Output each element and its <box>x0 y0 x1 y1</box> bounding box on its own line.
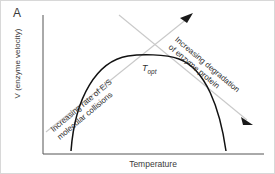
collisions-arrow-icon <box>180 13 193 23</box>
enzyme-temperature-figure: A V (enzyme velocity) Temperature Increa… <box>0 0 275 174</box>
t-opt-subscript: opt <box>148 68 157 75</box>
degradation-trend-line <box>119 15 247 120</box>
t-opt-label: Topt <box>142 63 157 75</box>
degradation-arrow-icon <box>241 117 253 125</box>
